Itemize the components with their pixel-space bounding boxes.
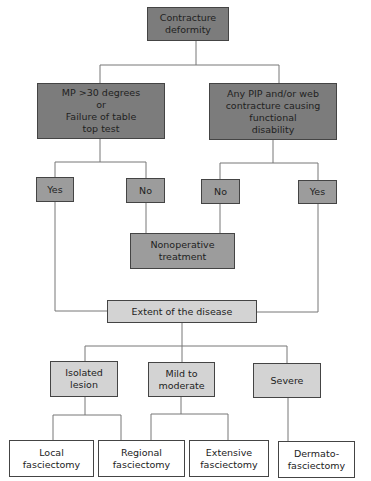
- answer-node-yes-right: Yes: [298, 180, 337, 204]
- treatment-node-extensive: Extensive fasciectomy: [189, 440, 269, 477]
- treatment-node-dermato: Dermato- fasciectomy: [278, 441, 355, 478]
- answer-node-no-left: No: [126, 178, 165, 203]
- severity-node-severe: Severe: [253, 363, 321, 398]
- nonoperative-node: Nonoperative treatment: [130, 233, 235, 269]
- treatment-node-local: Local fasciectomy: [9, 440, 94, 477]
- severity-node-mild: Mild to moderate: [148, 362, 215, 397]
- extent-node: Extent of the disease: [107, 300, 257, 323]
- treatment-node-regional: Regional fasciectomy: [98, 440, 185, 477]
- criteria-node-mp: MP >30 degrees or Failure of table top t…: [37, 83, 165, 139]
- answer-node-yes-left: Yes: [36, 177, 74, 202]
- criteria-node-pip: Any PIP and/or web contracture causing f…: [209, 83, 337, 140]
- severity-node-isolated: Isolated lesion: [50, 361, 118, 397]
- answer-node-no-right: No: [201, 179, 240, 204]
- root-node: Contracture deformity: [147, 7, 229, 41]
